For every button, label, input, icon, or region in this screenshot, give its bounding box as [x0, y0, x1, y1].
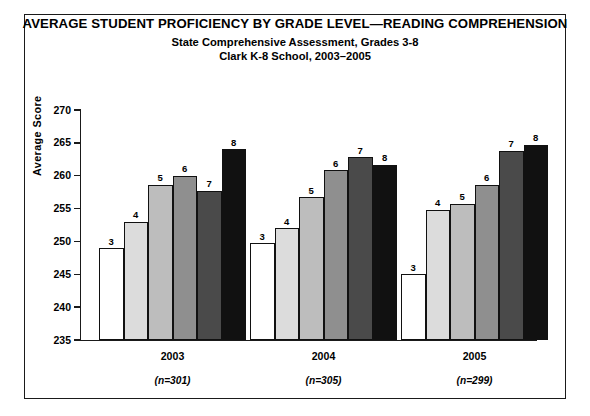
y-axis-tick-label: 270 — [41, 104, 71, 116]
chart-subtitle-1: State Comprehensive Assessment, Grades 3… — [0, 35, 590, 50]
bar-grade-6-2004: 6 — [324, 170, 349, 340]
bar-value-label: 8 — [382, 153, 387, 163]
chart-figure: AVERAGE STUDENT PROFICIENCY BY GRADE LEV… — [0, 0, 590, 416]
y-axis-tick-label: 260 — [41, 169, 71, 181]
bar-value-label: 6 — [484, 173, 489, 183]
bar-value-label: 4 — [435, 198, 440, 208]
y-axis-tick — [74, 274, 81, 275]
y-axis-tick — [74, 109, 81, 110]
x-group-sample-size: (n=299) — [415, 375, 535, 386]
bar-grade-4-2003: 4 — [124, 222, 149, 340]
x-group-year-label: 2003 — [113, 350, 233, 362]
x-group-sample-size: (n=305) — [264, 375, 384, 386]
bar-grade-3-2004: 3 — [250, 243, 275, 340]
plot-area: 345678345678345678 — [81, 110, 536, 340]
bar-value-label: 4 — [133, 210, 138, 220]
x-group-year-label: 2004 — [264, 350, 384, 362]
bar-value-label: 5 — [309, 186, 314, 196]
y-axis-tick-label: 240 — [41, 301, 71, 313]
bar-grade-8-2003: 8 — [222, 149, 247, 340]
bar-grade-3-2005: 3 — [401, 274, 426, 340]
y-axis-title: Average Score — [31, 76, 43, 176]
bar-value-label: 7 — [207, 179, 212, 189]
bar-grade-8-2005: 8 — [524, 145, 549, 340]
bar-grade-6-2005: 6 — [475, 185, 500, 340]
x-group-sample-size: (n=301) — [113, 375, 233, 386]
bar-value-label: 5 — [460, 192, 465, 202]
y-axis-tick — [74, 208, 81, 209]
bar-grade-7-2005: 7 — [499, 151, 524, 340]
x-group-2005: 2005(n=299) — [415, 340, 535, 386]
bar-value-label: 4 — [284, 217, 289, 227]
y-axis-tick-label: 250 — [41, 235, 71, 247]
y-axis-tick-label: 255 — [41, 202, 71, 214]
bar-value-label: 5 — [158, 173, 163, 183]
bar-grade-6-2003: 6 — [173, 176, 198, 340]
bar-value-label: 7 — [358, 146, 363, 156]
y-axis-tick — [74, 142, 81, 143]
y-axis-tick — [74, 241, 81, 242]
y-axis-tick-label: 235 — [41, 334, 71, 346]
bar-value-label: 3 — [411, 263, 416, 273]
bar-value-label: 6 — [182, 164, 187, 174]
bar-grade-5-2005: 5 — [450, 204, 475, 340]
bar-grade-8-2004: 8 — [373, 165, 398, 340]
bar-value-label: 6 — [333, 159, 338, 169]
bar-grade-4-2004: 4 — [275, 228, 300, 340]
y-axis-tick — [74, 339, 81, 340]
y-axis-tick — [74, 175, 81, 176]
bar-grade-7-2004: 7 — [348, 157, 373, 340]
bar-grade-5-2004: 5 — [299, 197, 324, 340]
x-group-2003: 2003(n=301) — [113, 340, 233, 386]
chart-title: AVERAGE STUDENT PROFICIENCY BY GRADE LEV… — [0, 16, 590, 33]
y-axis-tick-label: 265 — [41, 136, 71, 148]
chart-subtitle-2: Clark K-8 School, 2003–2005 — [0, 49, 590, 64]
bar-value-label: 3 — [109, 237, 114, 247]
bar-grade-4-2005: 4 — [426, 210, 451, 340]
bar-grade-7-2003: 7 — [197, 191, 222, 340]
bar-value-label: 7 — [509, 139, 514, 149]
bar-value-label: 8 — [533, 133, 538, 143]
title-block: AVERAGE STUDENT PROFICIENCY BY GRADE LEV… — [0, 16, 590, 64]
bar-grade-3-2003: 3 — [99, 248, 124, 340]
x-group-2004: 2004(n=305) — [264, 340, 384, 386]
bar-value-label: 3 — [260, 232, 265, 242]
bar-value-label: 8 — [231, 138, 236, 148]
y-axis-tick-label: 245 — [41, 268, 71, 280]
x-group-year-label: 2005 — [415, 350, 535, 362]
bar-grade-5-2003: 5 — [148, 185, 173, 340]
y-axis-tick — [74, 306, 81, 307]
